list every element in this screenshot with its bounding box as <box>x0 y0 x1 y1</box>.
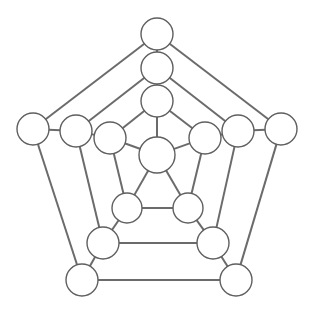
graph-svg <box>0 0 314 310</box>
graph-node-inner-bottom-left[interactable] <box>112 193 142 223</box>
diagram-canvas <box>0 0 314 310</box>
graph-edge-outer-left-to-mid-left <box>48 130 60 131</box>
graph-node-mid-right[interactable] <box>222 115 254 147</box>
graph-edge-mid-left-to-mid-bottom-left <box>80 146 100 228</box>
graph-node-mid-top[interactable] <box>141 52 173 84</box>
graph-edge-hub-center-to-inner-left <box>125 143 141 149</box>
graph-node-mid-bottom-right[interactable] <box>197 227 229 259</box>
graph-edge-outer-right-to-outer-bottom-right <box>240 144 276 265</box>
graph-node-mid-left[interactable] <box>60 115 92 147</box>
graph-node-outer-left[interactable] <box>17 113 49 145</box>
graph-edge-mid-right-to-mid-bottom-right <box>216 146 234 228</box>
graph-node-inner-left[interactable] <box>94 122 126 154</box>
graph-edge-hub-center-to-inner-right <box>173 143 190 149</box>
graph-edge-outer-top-to-outer-left <box>45 43 144 119</box>
graph-edge-hub-center-to-inner-bottom-right <box>166 170 181 195</box>
graph-edge-outer-left-to-outer-bottom-left <box>38 144 77 266</box>
graph-edge-outer-bottom-right-to-mid-bottom-right <box>221 256 228 267</box>
graph-edge-mid-bottom-left-to-inner-bottom-left <box>112 220 119 230</box>
graph-edge-inner-left-to-inner-bottom-left <box>114 153 124 194</box>
graph-edge-mid-top-to-mid-left <box>88 78 145 122</box>
graph-edge-outer-right-to-mid-right <box>253 130 265 131</box>
graph-node-hub-center[interactable] <box>139 137 175 173</box>
graph-edge-inner-right-to-inner-bottom-right <box>191 153 201 194</box>
node-layer <box>17 18 297 296</box>
graph-node-inner-right[interactable] <box>189 122 221 154</box>
graph-node-outer-bottom-right[interactable] <box>220 264 252 296</box>
graph-node-outer-right[interactable] <box>265 113 297 145</box>
graph-edge-inner-top-to-inner-left <box>122 111 145 129</box>
graph-edge-mid-bottom-right-to-inner-bottom-right <box>196 220 204 231</box>
graph-node-outer-bottom-left[interactable] <box>66 264 98 296</box>
graph-edge-outer-bottom-left-to-mid-bottom-left <box>90 256 96 266</box>
graph-node-outer-top[interactable] <box>141 18 173 50</box>
graph-edge-outer-top-to-outer-right <box>169 43 268 119</box>
graph-node-inner-top[interactable] <box>141 85 173 117</box>
graph-edge-mid-top-to-mid-right <box>169 78 226 122</box>
graph-edge-inner-top-to-inner-right <box>169 110 192 128</box>
graph-edge-hub-center-to-inner-bottom-left <box>134 170 148 195</box>
graph-node-mid-bottom-left[interactable] <box>87 227 119 259</box>
graph-node-inner-bottom-right[interactable] <box>173 193 203 223</box>
